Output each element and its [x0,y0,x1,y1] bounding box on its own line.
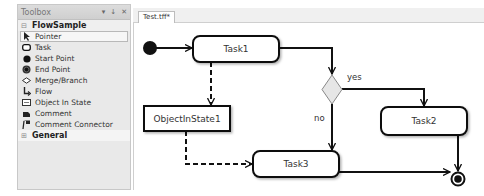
dropdown-icon[interactable]: ▾ [102,8,106,16]
expand-icon[interactable]: ⊞ [21,132,29,140]
item-label: Merge/Branch [35,76,87,85]
item-label: Pointer [35,32,61,41]
item-label: Object In State [35,98,91,107]
diagram-canvas[interactable]: Task1 yes no Task2 ObjectInState1 Task3 [133,22,484,190]
flow-task1-to-branch[interactable] [279,48,332,74]
document-tab-strip: Test.tff* [133,8,484,23]
close-icon[interactable]: ✕ [121,8,127,16]
group-flowsample[interactable]: ⊟ FlowSample [18,20,130,31]
edge-label-no: no [314,113,325,123]
pin-icon[interactable]: ↓ [110,8,116,16]
merge-branch-icon [22,76,31,85]
object-in-state-icon [22,98,31,107]
node-object-in-state1[interactable]: ObjectInState1 [144,106,230,131]
item-label: Comment [35,109,72,118]
toolbox-item-flow[interactable]: Flow [18,86,130,97]
flow-diagram: Task1 yes no Task2 ObjectInState1 Task3 [134,22,484,190]
start-point-icon [22,54,31,63]
toolbox-panel: Toolbox ▾ ↓ ✕ ⊟ FlowSample Pointer Task … [17,4,131,190]
task3-label: Task3 [282,159,308,169]
collapse-icon[interactable]: ⊟ [21,22,29,30]
flow-icon [22,87,31,96]
flow-branch-yes-to-task2[interactable] [342,89,424,106]
object-in-state1-label: ObjectInState1 [153,114,220,124]
toolbox-item-pointer[interactable]: Pointer [20,31,128,42]
item-label: Task [35,43,51,52]
comment-connector-icon [22,120,31,129]
edge-label-yes: yes [347,72,362,82]
toolbox-header: Toolbox ▾ ↓ ✕ [18,5,130,20]
toolbox-item-comment-connector[interactable]: Comment Connector [18,119,130,130]
task-icon [22,43,31,52]
item-label: End Point [35,65,70,74]
merge-branch-node[interactable] [322,75,342,104]
item-label: Start Point [35,54,74,63]
toolbox-item-object-in-state[interactable]: Object In State [18,97,130,108]
flow-object-to-task3-dashed[interactable] [186,131,252,164]
toolbox-item-start-point[interactable]: Start Point [18,53,130,64]
node-task3[interactable]: Task3 [253,151,339,177]
start-point[interactable] [143,41,157,55]
toolbox-item-merge-branch[interactable]: Merge/Branch [18,75,130,86]
toolbox-item-task[interactable]: Task [18,42,130,53]
item-label: Flow [35,87,52,96]
comment-icon [22,109,31,118]
node-task2[interactable]: Task2 [381,107,467,135]
group-label: General [32,131,67,140]
toolbox-item-comment[interactable]: Comment [18,108,130,119]
node-task1[interactable]: Task1 [193,36,279,62]
end-point[interactable] [452,173,465,186]
item-label: Comment Connector [35,120,113,129]
end-point-icon [22,65,31,74]
toolbox-title: Toolbox [21,8,97,17]
task2-label: Task2 [410,116,436,126]
pointer-icon [22,32,31,41]
task1-label: Task1 [222,44,248,54]
group-general[interactable]: ⊞ General [18,130,130,141]
group-label: FlowSample [32,21,86,30]
toolbox-item-end-point[interactable]: End Point [18,64,130,75]
